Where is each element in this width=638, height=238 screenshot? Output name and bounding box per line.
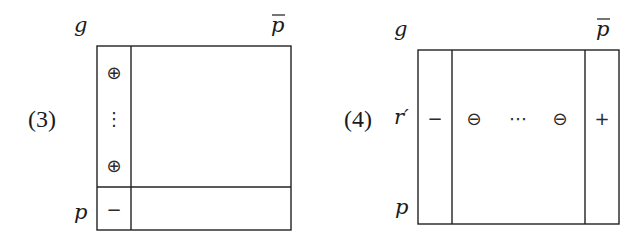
figure-4-label-g: g [394, 17, 407, 41]
figure-3-label-pbar: p [271, 13, 284, 37]
horizontal-ellipsis-icon: ⋯ [509, 108, 527, 129]
plus-icon: + [594, 108, 609, 129]
vertical-ellipsis-icon: ⋮ [105, 108, 123, 129]
oplus-icon: ⊕ [106, 62, 121, 83]
figure-4-label-p: p [395, 195, 408, 219]
minus-icon: − [106, 199, 121, 220]
figure-3-label-p: p [74, 200, 87, 224]
figure-3-label-g: g [74, 13, 87, 37]
diagram-canvas: (3) g p p ⊕ ⋮ ⊕ − (4) r′ g p p − ⊖ ⋯ ⊖ + [0, 0, 638, 238]
figure-4-label-rprime: r′ [394, 105, 409, 129]
minus-icon: − [427, 108, 442, 129]
figure-4-number: (4) [344, 106, 372, 132]
figure-3-outer-box [97, 46, 291, 230]
ominus-icon: ⊖ [466, 108, 481, 129]
figure-4: (4) r′ g p p − ⊖ ⋯ ⊖ + [344, 17, 619, 224]
figure-4-outer-box [418, 50, 619, 224]
oplus-icon: ⊕ [106, 155, 121, 176]
figure-4-label-pbar: p [596, 17, 609, 41]
ominus-icon: ⊖ [552, 108, 567, 129]
figure-3: (3) g p p ⊕ ⋮ ⊕ − [28, 13, 291, 230]
figure-3-number: (3) [28, 106, 56, 132]
